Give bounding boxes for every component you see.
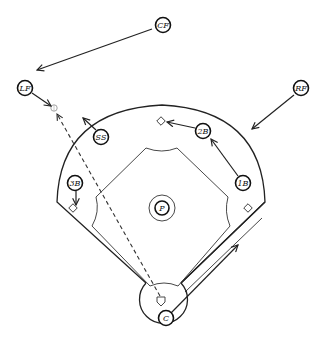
first-base-line-inner	[181, 202, 265, 283]
position-2b: 2B	[196, 124, 211, 139]
position-label: 1B	[238, 179, 249, 188]
position-rf: RF	[294, 81, 309, 96]
position-cf: CF	[156, 18, 171, 33]
position-p: P	[155, 201, 169, 215]
field-outline	[57, 105, 265, 283]
position-label: RF	[294, 84, 307, 93]
infield-grass	[92, 148, 230, 286]
field-diagram: CF LF RF SS 2B 1B 3B P C	[0, 0, 326, 350]
second-base	[157, 117, 165, 125]
home-plate	[157, 297, 165, 306]
position-label: 3B	[70, 179, 81, 188]
lf-arrow	[32, 93, 51, 106]
position-label: C	[163, 314, 169, 323]
position-c: C	[159, 311, 174, 326]
first-base	[244, 204, 252, 212]
position-label: LF	[19, 84, 31, 93]
position-label: SS	[96, 133, 107, 142]
cf-arrow	[37, 29, 152, 70]
2b-arrow	[167, 122, 195, 128]
position-label: 2B	[197, 127, 209, 136]
position-1b: 1B	[236, 176, 251, 191]
position-label: CF	[157, 21, 169, 30]
baseball-diagram: CF LF RF SS 2B 1B 3B P C	[0, 0, 326, 350]
1b-arrow	[211, 139, 238, 176]
third-base	[69, 204, 77, 212]
position-3b: 3B	[68, 176, 83, 191]
position-lf: LF	[18, 81, 33, 96]
first-base-line-lane	[185, 218, 262, 292]
rf-arrow	[252, 95, 294, 129]
position-label: P	[158, 204, 165, 213]
position-ss: SS	[94, 130, 109, 145]
